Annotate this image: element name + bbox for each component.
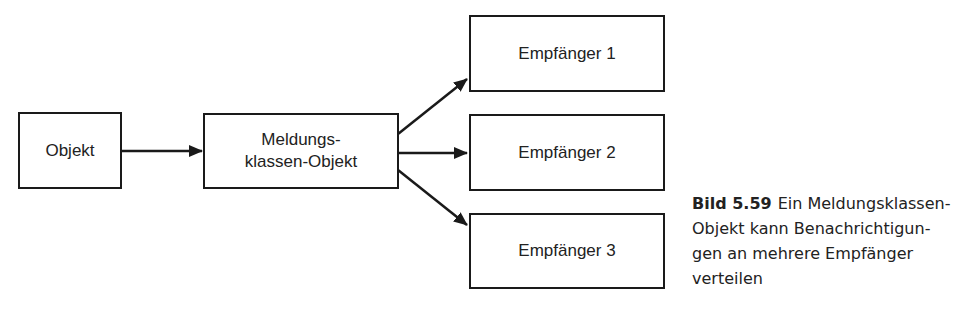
node-empf2-label: Empfänger 2 [518, 142, 615, 164]
caption-line-2: Objekt kann Benachrichtigun- [692, 216, 962, 241]
arrow-meldung-to-empf3 [398, 170, 467, 225]
node-objekt-label: Objekt [45, 140, 94, 162]
node-empf1-label: Empfänger 1 [518, 43, 615, 65]
node-empfaenger-2: Empfänger 2 [469, 114, 665, 191]
caption-line-3: gen an mehrere Empfänger [692, 241, 962, 266]
arrow-meldung-to-empf1 [398, 79, 467, 134]
caption-text-1: Ein Meldungsklassen- [778, 194, 951, 213]
figure-number: Bild 5.59 [692, 194, 772, 213]
figure-caption: Bild 5.59Ein Meldungsklassen- Objekt kan… [692, 191, 962, 291]
node-objekt: Objekt [18, 112, 122, 189]
caption-line-4: verteilen [692, 266, 962, 291]
node-meldung-label-line1: Meldungs- [261, 129, 340, 151]
node-empfaenger-1: Empfänger 1 [469, 15, 665, 92]
node-empfaenger-3: Empfänger 3 [469, 213, 665, 289]
node-meldungsklassen-objekt: Meldungs- klassen-Objekt [203, 113, 399, 189]
node-empf3-label: Empfänger 3 [518, 240, 615, 262]
caption-line-1: Bild 5.59Ein Meldungsklassen- [692, 191, 962, 216]
node-meldung-label-line2: klassen-Objekt [245, 151, 357, 173]
